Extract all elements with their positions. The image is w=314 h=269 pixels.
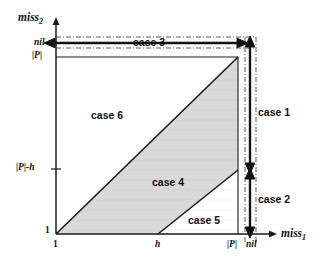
y-tick-label-p-minus-h: |P|-h xyxy=(16,163,34,173)
case-diagram-figure: miss2 miss1 nil |P| |P|-h 1 1 h |P| nil … xyxy=(0,0,314,269)
x-tick-label-one: 1 xyxy=(53,240,58,250)
case6-label: case 6 xyxy=(91,110,123,121)
y-tick-label-one: 1 xyxy=(45,226,50,236)
case3-label: case 3 xyxy=(133,37,165,48)
case2-label: case 2 xyxy=(258,194,290,205)
case5-label: case 5 xyxy=(188,215,220,226)
x-tick-label-h: h xyxy=(155,240,160,250)
x-axis-label: miss1 xyxy=(281,228,306,242)
case1-label: case 1 xyxy=(258,107,290,118)
case4-label: case 4 xyxy=(152,177,184,188)
x-axis-arrowhead xyxy=(269,231,277,238)
case2-arrow xyxy=(245,168,255,238)
case1-arrow xyxy=(245,36,255,174)
y-tick-label-nil: nil xyxy=(34,38,45,48)
y-tick-label-p: |P| xyxy=(32,51,42,61)
y-axis-label: miss2 xyxy=(18,12,43,26)
x-tick-label-p: |P| xyxy=(227,240,237,250)
y-axis-arrowhead xyxy=(53,17,60,25)
x-tick-label-nil: nil xyxy=(246,240,257,250)
